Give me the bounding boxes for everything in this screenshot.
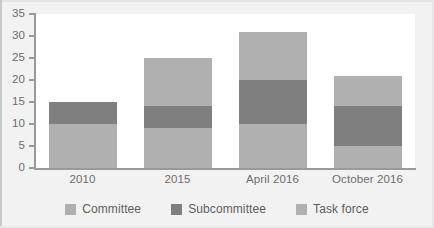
- y-axis-tick-label: 25: [1, 52, 25, 64]
- legend-item[interactable]: Task force: [296, 203, 369, 215]
- bar-segment-subcommittee[interactable]: [334, 106, 402, 146]
- y-axis-tick-label: 30: [1, 30, 25, 42]
- legend-item[interactable]: Committee: [65, 203, 141, 215]
- bar-group[interactable]: [49, 14, 117, 168]
- legend-swatch-icon: [296, 204, 307, 215]
- bar-segment-subcommittee[interactable]: [239, 80, 307, 124]
- frame-border-bottom: [0, 226, 434, 228]
- y-axis-tick-label: 0: [1, 162, 25, 174]
- y-axis-tick-label: 20: [1, 74, 25, 86]
- x-axis-line: [34, 168, 416, 170]
- legend-label: Committee: [82, 203, 141, 215]
- y-axis-tick-label: 5: [1, 140, 25, 152]
- bar-group[interactable]: [144, 14, 212, 168]
- y-axis-tick: [29, 57, 34, 59]
- y-axis-tick-label: 10: [1, 118, 25, 130]
- y-axis-tick: [29, 79, 34, 81]
- bar-segment-task-force[interactable]: [144, 58, 212, 106]
- legend-label: Task force: [313, 203, 369, 215]
- legend-swatch-icon: [171, 204, 182, 215]
- stacked-bar-chart: 35302520151050 20102015April 2016October…: [0, 0, 434, 228]
- y-axis-tick-label: 35: [1, 8, 25, 20]
- y-axis-tick: [29, 101, 34, 103]
- y-axis-tick: [29, 123, 34, 125]
- bar-segment-subcommittee[interactable]: [144, 106, 212, 128]
- bar-segment-committee[interactable]: [239, 124, 307, 168]
- y-axis-tick: [29, 167, 34, 169]
- bar-group[interactable]: [334, 14, 402, 168]
- legend-item[interactable]: Subcommittee: [171, 203, 266, 215]
- bar-segment-task-force[interactable]: [239, 32, 307, 80]
- legend-swatch-icon: [65, 204, 76, 215]
- y-axis-tick: [29, 145, 34, 147]
- y-axis-tick: [29, 35, 34, 37]
- y-axis-tick: [29, 13, 34, 15]
- bar-segment-subcommittee[interactable]: [49, 102, 117, 124]
- chart-legend: CommitteeSubcommitteeTask force: [0, 200, 434, 218]
- y-axis-tick-label: 15: [1, 96, 25, 108]
- bar-segment-committee[interactable]: [334, 146, 402, 168]
- y-axis-line: [34, 13, 36, 170]
- bar-segment-committee[interactable]: [49, 124, 117, 168]
- bar-segment-committee[interactable]: [144, 128, 212, 168]
- legend-label: Subcommittee: [188, 203, 266, 215]
- bar-segment-task-force[interactable]: [334, 76, 402, 107]
- x-axis-category-label: October 2016: [308, 174, 428, 186]
- frame-border-top: [0, 0, 434, 2]
- bar-group[interactable]: [239, 14, 307, 168]
